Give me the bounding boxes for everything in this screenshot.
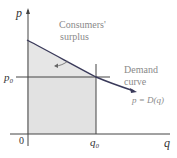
origin-label: 0 [19,135,24,146]
demand-label-line2: curve [124,76,147,87]
y-axis-label: p [15,6,22,20]
demand-equation: p = D(q) [131,95,164,105]
surplus-label-line2: surplus [60,31,89,42]
x-axis-label: q [164,136,170,150]
surplus-label-line1: Consumers' [59,19,106,30]
p0-label: p₀ [3,71,14,83]
y-axis-arrow-icon [26,8,30,14]
consumer-surplus-diagram: p q 0 p₀ q₀ Consumers' surplus Demand cu… [0,0,177,158]
expenditure-region [27,77,96,134]
demand-curve-arrow-icon [130,88,137,93]
q0-label: q₀ [90,136,100,148]
demand-label-line1: Demand [124,64,158,75]
